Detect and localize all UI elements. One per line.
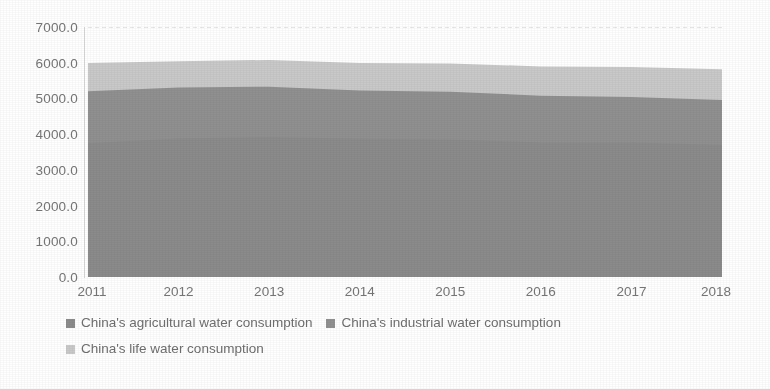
y-tick-label: 4000.0 <box>36 127 79 142</box>
x-tick-label: 2011 <box>77 284 106 299</box>
area-series-group <box>88 27 722 277</box>
legend-row-1: China's agricultural water consumption C… <box>66 310 766 336</box>
y-axis-line <box>84 27 85 278</box>
x-tick-label: 2012 <box>164 284 194 299</box>
y-tick-label: 3000.0 <box>36 162 79 177</box>
legend-label-industrial: China's industrial water consumption <box>341 316 560 330</box>
square-marker-icon <box>66 319 75 328</box>
y-tick-label: 2000.0 <box>36 198 79 213</box>
y-tick-label: 7000.0 <box>36 20 79 35</box>
stacked-area-chart: 0.01000.02000.03000.04000.05000.06000.07… <box>0 0 770 389</box>
x-tick-label: 2017 <box>616 284 646 299</box>
plot-area <box>88 27 722 277</box>
y-tick-label: 1000.0 <box>36 234 79 249</box>
chart-legend: China's agricultural water consumption C… <box>66 310 766 362</box>
legend-row-2: China's life water consumption <box>66 336 766 362</box>
x-tick-label: 2016 <box>526 284 556 299</box>
x-tick-label: 2013 <box>254 284 284 299</box>
square-marker-icon <box>66 345 75 354</box>
legend-item-agricultural[interactable]: China's agricultural water consumption <box>66 316 312 330</box>
legend-item-life[interactable]: China's life water consumption <box>66 342 264 356</box>
y-tick-label: 6000.0 <box>36 55 79 70</box>
y-tick-label: 5000.0 <box>36 91 79 106</box>
x-tick-label: 2014 <box>345 284 375 299</box>
square-marker-icon <box>326 319 335 328</box>
legend-label-agricultural: China's agricultural water consumption <box>81 316 312 330</box>
y-tick-label: 0.0 <box>59 270 78 285</box>
x-axis: 20112012201320142015201620172018 <box>88 279 722 309</box>
y-axis: 0.01000.02000.03000.04000.05000.06000.07… <box>0 0 88 280</box>
x-tick-label: 2015 <box>435 284 465 299</box>
legend-label-life: China's life water consumption <box>81 342 264 356</box>
x-tick-label: 2018 <box>701 284 731 299</box>
area-agricultural-water-consumption <box>88 137 722 277</box>
legend-item-industrial[interactable]: China's industrial water consumption <box>326 316 560 330</box>
